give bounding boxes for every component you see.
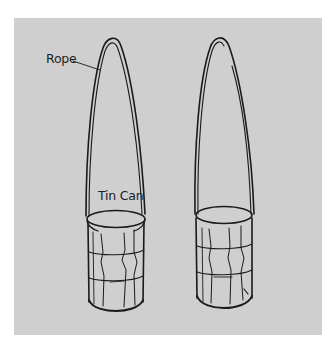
left-tin-can xyxy=(87,211,145,312)
illustration-figure: Rope Tin Can xyxy=(0,0,336,349)
right-rope xyxy=(195,38,254,214)
rope-label: Rope xyxy=(46,51,77,66)
rope-leader-line xyxy=(73,61,100,70)
tin-can-label: Tin Can xyxy=(98,188,144,203)
right-tin-can xyxy=(196,207,252,309)
